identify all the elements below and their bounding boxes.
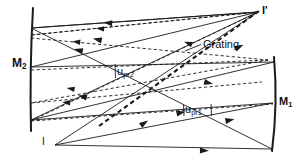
solid-ray-group bbox=[31, 12, 274, 149]
label-mirror-m2-subscript: 2 bbox=[22, 62, 27, 71]
label-angle-upr2-subscript: pr2 bbox=[123, 70, 134, 79]
arrow-ray-top-left-2 bbox=[92, 35, 102, 43]
label-angle-upr1: upr1 bbox=[185, 104, 202, 116]
ray-diagram-figure: M2 M1 I I' Grating upr2 upr1 bbox=[0, 0, 297, 160]
arrow-dashed-1 bbox=[96, 26, 104, 32]
label-mirror-m2: M2 bbox=[12, 57, 27, 71]
arrow-ray-bottom-1 bbox=[200, 148, 209, 154]
label-mirror-m1-base: M bbox=[279, 95, 288, 107]
label-source-point: I bbox=[42, 137, 45, 147]
ray-dashed-m2-to-m1-b bbox=[31, 60, 268, 70]
arrow-ray-diag-1 bbox=[139, 118, 150, 128]
label-grating: Grating bbox=[203, 39, 239, 50]
angle-tick-upr1-left bbox=[184, 105, 185, 117]
label-angle-upr2: upr2 bbox=[117, 66, 134, 78]
arrow-ray-top-left-1 bbox=[103, 20, 112, 27]
mirror-group bbox=[31, 8, 276, 151]
label-mirror-m2-base: M bbox=[12, 56, 22, 70]
label-mirror-m1-subscript: 1 bbox=[288, 100, 292, 109]
arrow-ray-right-1 bbox=[204, 79, 214, 87]
angle-tick-upr1-right bbox=[211, 104, 212, 116]
ray-solid-source-to-m1bottom bbox=[55, 145, 272, 149]
arrow-dashed-3 bbox=[66, 85, 75, 92]
label-image-point: I' bbox=[262, 5, 268, 16]
label-angle-upr1-subscript: pr1 bbox=[191, 108, 202, 117]
label-mirror-m1: M1 bbox=[279, 96, 292, 108]
arrow-dashed-2 bbox=[72, 39, 80, 45]
angle-tick-upr2 bbox=[115, 64, 116, 78]
arrow-ray-right-3 bbox=[225, 116, 235, 124]
ray-dashed-m2-to-m1-d bbox=[31, 104, 273, 121]
